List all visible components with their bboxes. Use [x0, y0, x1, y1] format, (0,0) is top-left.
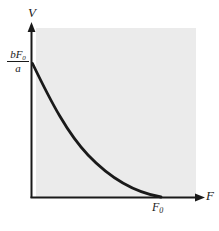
- axes-and-curve: [0, 0, 219, 231]
- x-intercept-label: F0: [152, 201, 163, 213]
- y-intercept-numerator: bF0: [6, 49, 30, 61]
- x-intercept-subscript: 0: [159, 206, 163, 215]
- force-velocity-figure: V F F0 bF0 a: [0, 0, 219, 231]
- y-intercept-denominator: a: [6, 62, 30, 74]
- x-axis-arrowhead: [195, 194, 205, 202]
- y-axis-arrowhead: [28, 22, 36, 32]
- y-axis-label: V: [28, 6, 36, 19]
- y-intercept-numerator-base: bF: [10, 48, 22, 60]
- x-axis-label: F: [206, 189, 214, 202]
- y-intercept-label: bF0 a: [6, 49, 30, 74]
- force-velocity-curve: [33, 64, 162, 198]
- y-intercept-numerator-subscript: 0: [22, 54, 26, 62]
